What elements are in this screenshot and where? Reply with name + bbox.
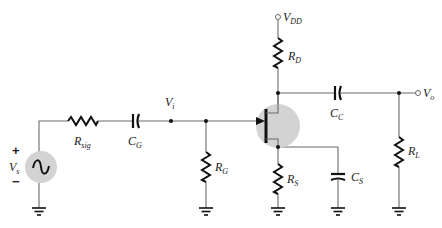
label-vdd: VDD (283, 10, 302, 26)
label-cg: CG (128, 134, 142, 150)
ground-icon (199, 208, 213, 215)
jfet-transistor (256, 93, 300, 148)
label-vs: Vs (9, 160, 19, 176)
resistor-rd: RD (274, 38, 301, 68)
label-rg: RG (214, 160, 228, 176)
plus-sign: + (12, 143, 20, 158)
capacitor-cs: CS (331, 170, 363, 186)
signal-source: + − Vs (9, 143, 57, 189)
resistor-rs: RS (274, 164, 298, 194)
label-vi: Vi (165, 95, 175, 111)
resistor-rg: RG (202, 152, 228, 182)
ground-icon (271, 208, 285, 215)
resistor-rl: RL (395, 137, 420, 167)
vdd-terminal (276, 15, 281, 20)
label-cs: CS (351, 170, 363, 186)
capacitor-cc: CC (330, 86, 344, 122)
label-rl: RL (407, 144, 420, 160)
label-rsig: Rsig (73, 134, 91, 150)
ground-icon (392, 208, 406, 215)
label-rs: RS (286, 172, 298, 188)
vo-terminal (416, 91, 421, 96)
ground-icon (32, 208, 46, 215)
ground-icon (331, 208, 345, 215)
label-vo: Vo (423, 86, 434, 102)
resistor-rsig: Rsig (68, 117, 98, 150)
label-rd: RD (287, 49, 301, 65)
capacitor-cg: CG (128, 114, 142, 150)
minus-sign: − (12, 174, 20, 189)
circuit-schematic: + − Vs Rsig RG RD RS RL CG CC CS (0, 0, 442, 228)
label-cc: CC (330, 106, 344, 122)
ground-symbols (32, 208, 406, 215)
